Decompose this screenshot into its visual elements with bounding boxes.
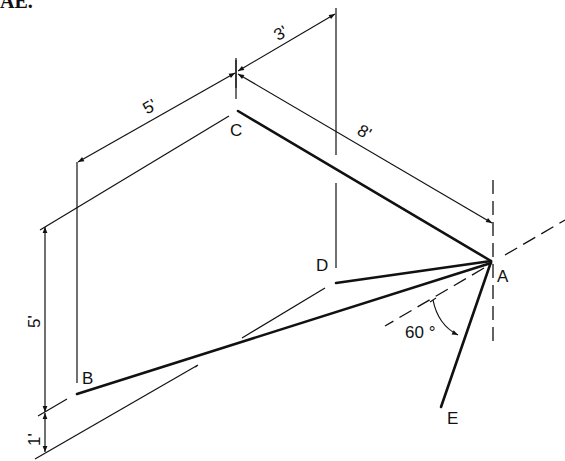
angle-label-60: 60 ° xyxy=(405,323,435,342)
pipe-run xyxy=(77,111,491,407)
angle-arc xyxy=(433,300,458,335)
label-point-a: A xyxy=(497,267,509,286)
label-point-e: E xyxy=(447,409,458,428)
dimension-lines xyxy=(45,14,492,452)
line-base-bottom xyxy=(35,365,198,459)
pipe-segment-d-a xyxy=(336,261,491,283)
iso-axis-a-upper xyxy=(505,220,565,255)
dim-label-5-vertical: 5' xyxy=(25,315,44,328)
pipe-segment-a-e xyxy=(441,262,491,407)
line-d-southwest xyxy=(242,288,325,338)
dim-label-5-upper: 5' xyxy=(139,95,160,118)
label-point-c: C xyxy=(230,121,242,140)
dim-3-top xyxy=(238,14,335,71)
label-point-b: B xyxy=(82,369,93,388)
dim-label-1-vertical: 1' xyxy=(25,433,44,446)
dim-label-8: 8' xyxy=(354,121,375,144)
label-point-d: D xyxy=(316,256,328,275)
dim-8-diag xyxy=(238,74,492,223)
construction-lines xyxy=(35,8,336,459)
line-c-west xyxy=(40,116,229,230)
line-base-short xyxy=(38,399,67,416)
iso-axis-a-lower xyxy=(385,268,484,326)
pipe-isometric-diagram: A B C D E 3' 5' 8' 5' 1' 60 ° xyxy=(0,0,565,461)
dim-5-upper xyxy=(78,73,235,162)
